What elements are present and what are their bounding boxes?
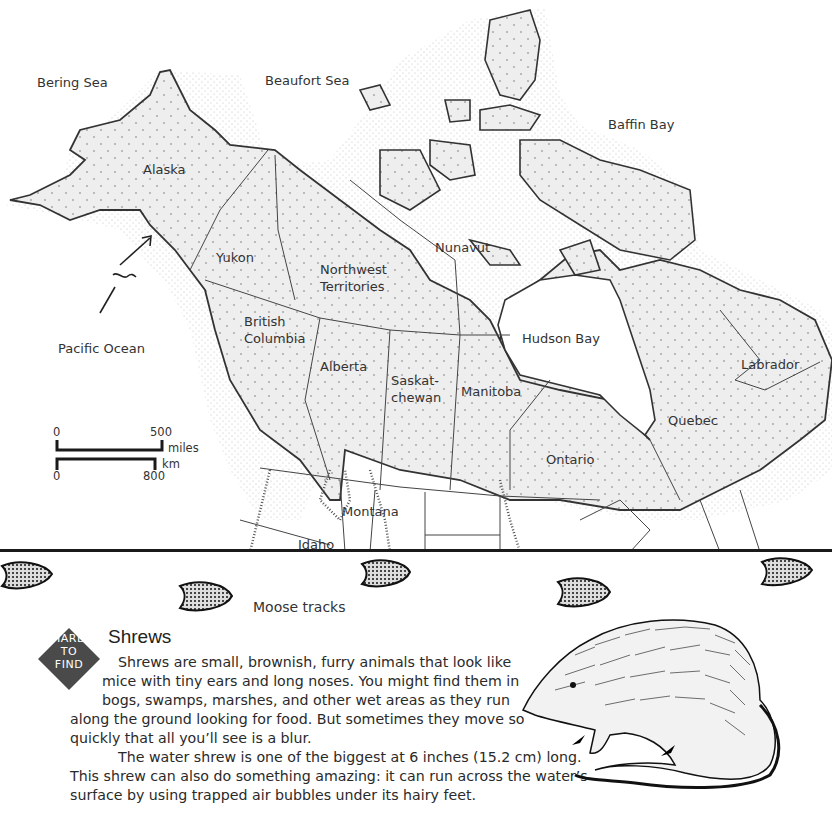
badge-text: HARD TO FIND xyxy=(38,632,100,671)
scale-miles-start: 0 xyxy=(53,425,60,439)
scale-bars xyxy=(57,440,162,470)
label-columbia: Columbia xyxy=(244,331,305,347)
article-title: Shrews xyxy=(108,626,171,648)
label-chewan: chewan xyxy=(391,390,441,406)
moose-tracks-caption: Moose tracks xyxy=(253,599,346,615)
body-line: This shrew can also do something amazing… xyxy=(70,767,588,787)
label-yukon: Yukon xyxy=(216,250,254,266)
body-line: quickly that all you’ll see is a blur. xyxy=(70,729,312,749)
body-line: bogs, swamps, marshes, and other wet are… xyxy=(102,691,510,711)
label-hudson-bay: Hudson Bay xyxy=(522,331,600,347)
moose-track-icon xyxy=(178,580,234,614)
label-labrador: Labrador xyxy=(741,357,799,373)
label-bering-sea: Bering Sea xyxy=(37,75,108,91)
label-alaska: Alaska xyxy=(143,162,186,178)
label-quebec: Quebec xyxy=(668,413,718,429)
label-northwest: Northwest xyxy=(320,262,387,278)
label-ontario: Ontario xyxy=(546,452,594,468)
body-line: surface by using trapped air bubbles und… xyxy=(70,786,476,806)
shrew-illustration xyxy=(515,605,785,790)
scale-km-end: 800 xyxy=(143,469,165,483)
page-divider xyxy=(0,549,832,552)
label-pacific-ocean: Pacific Ocean xyxy=(58,341,145,357)
moose-track-icon xyxy=(0,560,54,592)
label-montana: Montana xyxy=(342,504,399,520)
body-line: The water shrew is one of the biggest at… xyxy=(118,748,582,768)
label-baffin-bay: Baffin Bay xyxy=(608,117,674,133)
label-british: British xyxy=(244,314,286,330)
moose-track-icon xyxy=(360,558,412,590)
canada-map xyxy=(0,0,832,552)
label-alberta: Alberta xyxy=(320,359,367,375)
body-line: along the ground looking for food. But s… xyxy=(70,710,524,730)
label-saskat: Saskat- xyxy=(391,373,439,389)
scale-km-start: 0 xyxy=(53,469,60,483)
label-nunavut: Nunavut xyxy=(435,240,490,256)
label-manitoba: Manitoba xyxy=(461,384,521,400)
body-line: Shrews are small, brownish, furry animal… xyxy=(118,653,511,673)
scale-miles-end: 500 xyxy=(150,425,172,439)
moose-track-icon xyxy=(760,556,814,590)
scale-miles-unit: miles xyxy=(168,441,199,455)
body-line: mice with tiny ears and long noses. You … xyxy=(102,672,519,692)
label-territories: Territories xyxy=(320,279,385,295)
label-beaufort-sea: Beaufort Sea xyxy=(265,73,349,89)
